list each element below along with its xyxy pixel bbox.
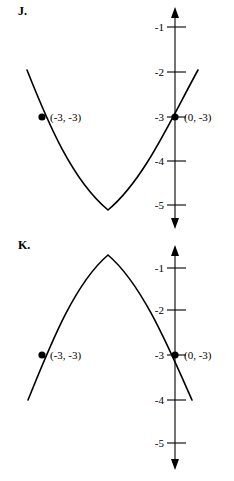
parabola-curve-j [27,70,198,210]
y-tick-label: -2 [155,66,164,78]
parabola-curve-k [28,255,192,400]
y-tick-label: -4 [155,155,165,167]
y-tick-label: -1 [155,262,164,274]
point-dot [38,113,45,120]
y-tick-label: -3 [155,111,165,123]
y-axis-arrow-up-icon [171,7,179,18]
point-dot [171,113,178,120]
y-axis-arrow-down-icon [171,459,179,470]
y-axis-arrow-down-icon [171,218,179,229]
point-label: (0, -3) [184,111,212,124]
point-dot [38,351,45,358]
plot-point-k-right: (0, -3) [171,349,211,362]
y-tick-labels-j: -1 -2 -3 -4 -5 [155,21,165,211]
plot-point-j-right: (0, -3) [171,111,211,124]
point-label: (-3, -3) [50,111,81,124]
point-dot [171,351,178,358]
figure-k-plot: -1 -2 -3 -4 -5 (-3, -3) (0, -3) [0,234,234,481]
y-tick-label: -5 [155,437,165,449]
figure-k: K. -1 -2 -3 -4 -5 (-3, -3) [0,234,234,481]
y-tick-label: -3 [155,349,165,361]
figure-j: J. -1 -2 -3 -4 -5 (-3, -3) [0,0,234,234]
y-tick-labels-k: -1 -2 -3 -4 -5 [155,262,165,449]
point-label: (0, -3) [184,349,212,362]
y-tick-label: -4 [155,394,165,406]
figure-j-plot: -1 -2 -3 -4 -5 (-3, -3) (0, -3) [0,0,234,234]
point-label: (-3, -3) [50,349,81,362]
y-axis-arrow-up-icon [171,245,179,256]
y-tick-label: -1 [155,21,164,33]
y-tick-label: -5 [155,199,165,211]
y-tick-label: -2 [155,304,164,316]
